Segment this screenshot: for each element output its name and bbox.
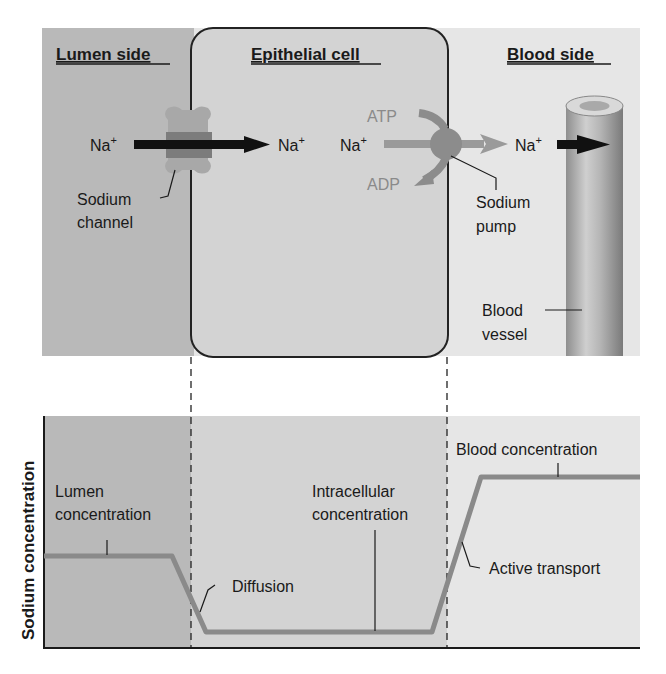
epithelial-cell — [191, 28, 448, 357]
atp-label: ATP — [367, 108, 397, 125]
chart-lumen-region — [44, 416, 191, 648]
na-blood-arrow — [557, 140, 579, 149]
blood-concentration-label: Blood concentration — [456, 441, 597, 458]
blood-vessel-icon — [566, 96, 623, 356]
sodium-pump-label-2: pump — [476, 218, 516, 235]
lumen-concentration-label-1: Lumen — [55, 483, 104, 500]
adp-label: ADP — [367, 176, 400, 193]
header-blood-side: Blood side — [507, 45, 594, 64]
y-axis-label: Sodium concentration — [19, 461, 38, 640]
diffusion-label: Diffusion — [232, 578, 294, 595]
sodium-pump-label-1: Sodium — [476, 194, 530, 211]
intracellular-concentration-label-2: concentration — [312, 506, 408, 523]
intracellular-concentration-label-1: Intracellular — [312, 483, 395, 500]
sodium-channel-label-1: Sodium — [77, 191, 131, 208]
concentration-chart: Sodium concentration Lumen concentration… — [19, 357, 640, 649]
sodium-channel-label-2: channel — [77, 214, 133, 231]
chart-cell-region — [191, 416, 447, 648]
blood-vessel-label-1: Blood — [482, 302, 523, 319]
header-epithelial-cell: Epithelial cell — [251, 45, 360, 64]
na-diffusion-arrow — [134, 140, 246, 149]
blood-vessel-label-2: vessel — [482, 326, 527, 343]
sodium-transport-diagram: Lumen side Epithelial cell Blood side Na… — [0, 0, 666, 674]
active-transport-label: Active transport — [489, 560, 601, 577]
sodium-pump-icon — [430, 128, 462, 160]
lumen-concentration-label-2: concentration — [55, 506, 151, 523]
header-lumen-side: Lumen side — [56, 45, 150, 64]
top-panel: Lumen side Epithelial cell Blood side Na… — [42, 28, 640, 357]
